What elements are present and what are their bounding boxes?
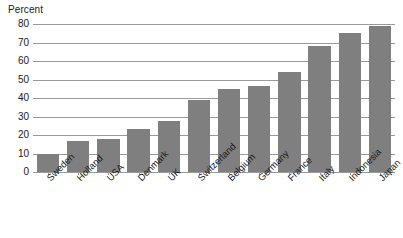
- x-axis-labels: SwedenHollandUSADenmarkUKSwitzerlandBelg…: [33, 176, 395, 238]
- y-tick-label: 70: [18, 38, 29, 48]
- bar-chart: Percent 01020304050607080 SwedenHollandU…: [0, 0, 403, 238]
- bar: [339, 33, 361, 172]
- bar: [188, 100, 210, 172]
- y-tick-label: 60: [18, 56, 29, 66]
- bar: [308, 46, 330, 172]
- y-axis-title: Percent: [8, 4, 43, 15]
- bar-series: [33, 24, 395, 172]
- y-tick-label: 50: [18, 75, 29, 85]
- plot-area: 01020304050607080: [33, 24, 395, 172]
- y-tick-label: 40: [18, 93, 29, 103]
- y-tick-label: 10: [18, 149, 29, 159]
- y-tick-label: 0: [23, 167, 29, 177]
- y-tick-label: 80: [18, 19, 29, 29]
- y-tick-label: 20: [18, 130, 29, 140]
- y-tick-label: 30: [18, 112, 29, 122]
